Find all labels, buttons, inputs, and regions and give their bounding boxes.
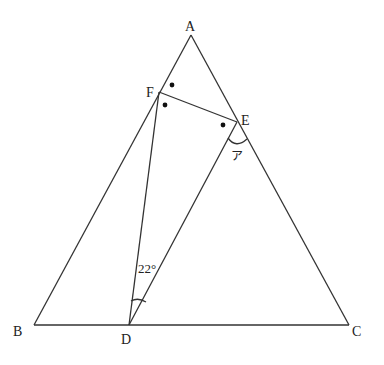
label-f: F	[146, 85, 154, 100]
angle-arc-a	[228, 138, 247, 144]
label-a: A	[185, 19, 196, 34]
label-c: C	[352, 324, 361, 339]
angle-mark-dot	[221, 123, 226, 128]
segment-fe	[159, 92, 237, 122]
side-ab	[34, 35, 191, 325]
segment-ed	[129, 122, 237, 325]
label-b: B	[13, 324, 22, 339]
side-ca	[191, 35, 349, 325]
angle-mark-dot	[170, 83, 175, 88]
segment-fd	[129, 92, 159, 325]
label-e: E	[241, 113, 250, 128]
angle-label-a: ア	[231, 149, 243, 163]
angle-label-22: 22°	[138, 261, 156, 276]
triangle-diagram: A B C D E F 22° ア	[0, 0, 384, 365]
angle-arc-22	[131, 299, 146, 302]
label-d: D	[121, 332, 131, 347]
diagram-lines	[34, 35, 349, 325]
angle-mark-dot	[163, 103, 168, 108]
